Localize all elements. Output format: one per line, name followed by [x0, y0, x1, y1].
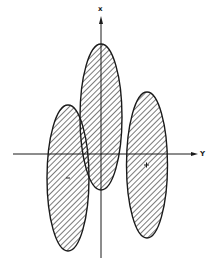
horizontal-axis-label: Y [200, 151, 205, 158]
vertical-axis-label: x [98, 6, 103, 13]
diagram-canvas: x Y [0, 0, 214, 262]
horizontal-axis-arrow-icon [191, 152, 198, 156]
vertical-axis-arrow-icon [99, 16, 103, 24]
ellipse-diagram [0, 0, 214, 262]
